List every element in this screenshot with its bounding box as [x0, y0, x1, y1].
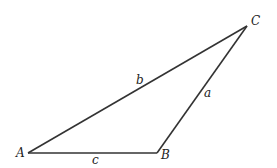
side-a-line: [157, 26, 247, 153]
vertex-label-c: C: [251, 14, 260, 28]
side-label-b: b: [136, 73, 144, 87]
vertex-label-a: A: [15, 146, 25, 160]
side-b-line: [28, 26, 247, 153]
side-label-c: c: [92, 153, 99, 167]
triangle-diagram: A B C a b c: [0, 0, 277, 168]
side-label-a: a: [204, 86, 211, 100]
triangle-canvas: A B C a b c: [0, 0, 277, 168]
vertex-label-b: B: [160, 148, 170, 162]
